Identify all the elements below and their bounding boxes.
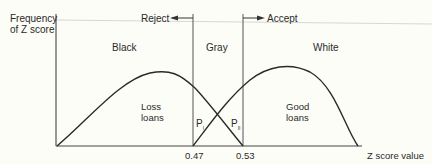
region-white-label: White [313, 42, 339, 53]
good-loans-curve [193, 66, 358, 146]
y-axis-label: Frequency of Z score [10, 13, 50, 35]
accept-arrowhead-icon [257, 16, 265, 21]
p2-label: PII [231, 118, 240, 134]
reject-label: Reject [141, 13, 169, 24]
accept-label: Accept [267, 13, 298, 24]
good-loans-line2: loans [286, 112, 309, 123]
region-black-label: Black [112, 42, 136, 53]
good-loans-label: Good loans [286, 101, 309, 123]
cutoff-047-label: 0.47 [185, 150, 204, 161]
region-gray-label: Gray [206, 42, 228, 53]
cutoff-053-label: 0.53 [236, 150, 255, 161]
reject-arrowhead-icon [170, 16, 178, 21]
y-axis-label-line1: Frequency [10, 13, 50, 24]
loss-loans-label: Loss loans [141, 101, 164, 123]
loss-loans-line1: Loss [141, 101, 164, 112]
loss-loans-line2: loans [141, 112, 164, 123]
good-loans-line1: Good [286, 101, 309, 112]
y-axis-label-line2: of Z score [10, 24, 50, 35]
p1-label: PI [196, 118, 204, 134]
chart-graphics [0, 0, 432, 164]
x-axis-label: Z score value [367, 150, 424, 161]
